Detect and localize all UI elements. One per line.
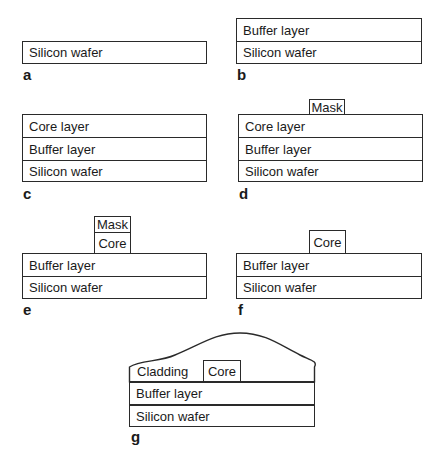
silicon-wafer-layer: Silicon wafer: [129, 404, 315, 427]
core-block: Core: [203, 360, 241, 383]
buffer-layer: Buffer layer: [129, 381, 315, 405]
panel-label-g: g: [131, 429, 140, 444]
cladding-label: Cladding: [137, 364, 188, 379]
